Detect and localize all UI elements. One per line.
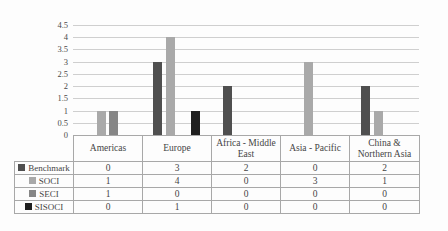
series-name: SECI — [39, 189, 59, 199]
bar-soci-1 — [97, 111, 106, 135]
gridline-y-2.5 — [73, 74, 419, 75]
y-axis-tick-label: 0.5 — [38, 119, 68, 128]
y-axis-tick-label: 1.5 — [38, 94, 68, 103]
y-axis-tick-label: 3.5 — [38, 45, 68, 54]
gridline-y-3 — [73, 62, 419, 63]
bar-benchmark-3 — [223, 86, 232, 135]
table-row-benchmark: Benchmark03202 — [15, 162, 420, 175]
value-cell: 0 — [281, 162, 350, 175]
legend-swatch-benchmark — [18, 164, 25, 171]
value-cell: 2 — [350, 162, 420, 175]
chart-data-table: AmericasEuropeAfrica - Middle EastAsia -… — [14, 135, 420, 214]
category-label: Europe — [143, 136, 212, 162]
value-cell: 1 — [74, 188, 143, 201]
value-cell: 0 — [143, 188, 212, 201]
value-cell: 3 — [281, 175, 350, 188]
value-cell: 0 — [74, 201, 143, 214]
value-cell: 0 — [212, 201, 281, 214]
value-cell: 1 — [143, 201, 212, 214]
y-axis-tick-label: 3 — [38, 58, 68, 67]
y-axis-tick-label: 2 — [38, 82, 68, 91]
bar-soci-5 — [374, 111, 383, 135]
category-header-row: AmericasEuropeAfrica - Middle EastAsia -… — [15, 136, 420, 162]
y-axis-tick-label: 1 — [38, 107, 68, 116]
value-cell: 0 — [212, 188, 281, 201]
bar-benchmark-2 — [153, 62, 162, 135]
y-axis-tick-label: 4.5 — [38, 21, 68, 30]
value-cell: 0 — [281, 188, 350, 201]
gridline-y-4 — [73, 37, 419, 38]
value-cell: 4 — [143, 175, 212, 188]
data-table-body: AmericasEuropeAfrica - Middle EastAsia -… — [15, 136, 420, 214]
value-cell: 1 — [350, 175, 420, 188]
category-label: Africa - Middle East — [212, 136, 281, 162]
series-name: SISOCI — [35, 202, 64, 212]
y-axis-tick-label: 4 — [38, 33, 68, 42]
legend-swatch-sisoci — [25, 203, 32, 210]
bar-chart-figure: 4.543.532.521.510.50 AmericasEuropeAfric… — [0, 0, 448, 231]
value-cell: 1 — [74, 175, 143, 188]
y-axis-tick-label: 2.5 — [38, 70, 68, 79]
table-corner-cell — [15, 136, 74, 162]
value-cell: 0 — [350, 188, 420, 201]
table-row-soci: SOCI14031 — [15, 175, 420, 188]
gridline-y-4.5 — [73, 25, 419, 26]
series-row-header: Benchmark — [15, 162, 74, 175]
category-label: Americas — [74, 136, 143, 162]
series-name: SOCI — [39, 176, 60, 186]
bar-benchmark-5 — [361, 86, 370, 135]
plot-area: 4.543.532.521.510.50 — [0, 0, 448, 135]
gridline-y-3.5 — [73, 49, 419, 50]
category-label: China & Northern Asia — [350, 136, 420, 162]
value-cell: 0 — [281, 201, 350, 214]
bar-seci-1 — [109, 111, 118, 135]
bar-sisoci-2 — [191, 111, 200, 135]
table-row-sisoci: SISOCI01000 — [15, 201, 420, 214]
value-cell: 0 — [350, 201, 420, 214]
value-cell: 3 — [143, 162, 212, 175]
bar-soci-2 — [166, 37, 175, 135]
value-cell: 0 — [212, 175, 281, 188]
table-row-seci: SECI10000 — [15, 188, 420, 201]
series-row-header: SOCI — [15, 175, 74, 188]
series-name: Benchmark — [28, 163, 69, 173]
category-label: Asia - Pacific — [281, 136, 350, 162]
bar-soci-4 — [304, 62, 313, 135]
value-cell: 0 — [74, 162, 143, 175]
series-row-header: SECI — [15, 188, 74, 201]
legend-swatch-seci — [29, 190, 36, 197]
legend-swatch-soci — [29, 177, 36, 184]
value-cell: 2 — [212, 162, 281, 175]
series-row-header: SISOCI — [15, 201, 74, 214]
